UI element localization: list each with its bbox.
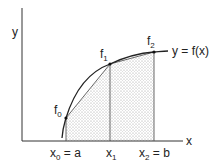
curve-label: y = f(x) — [172, 44, 209, 58]
point-f0 — [64, 116, 67, 119]
trapezoid-rule-diagram: y x y = f(x) f0 f1 f2 x0 = a x1 x2 = b — [0, 0, 221, 164]
point-f2 — [152, 50, 155, 53]
y-axis-label: y — [12, 25, 18, 39]
trapezoid-area-1 — [66, 64, 110, 141]
label-f2: f2 — [147, 34, 155, 50]
point-f1 — [108, 62, 111, 65]
label-f1: f1 — [100, 47, 108, 63]
tick-label-x0: x0 = a — [50, 146, 81, 162]
label-f0: f0 — [54, 103, 62, 119]
tick-label-x2: x2 = b — [139, 146, 170, 162]
tick-label-x1: x1 — [106, 146, 117, 162]
x-axis-label: x — [186, 134, 192, 148]
trapezoid-area-2 — [110, 52, 154, 141]
